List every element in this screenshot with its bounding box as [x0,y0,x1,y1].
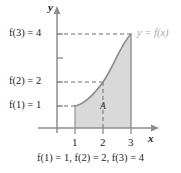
y-value-label-f1: f(1) = 1 [9,100,41,111]
function-plot [0,0,181,173]
x-tick-label-2: 2 [100,137,106,148]
area-label: A [100,102,106,112]
y-value-label-f3: f(3) = 4 [9,28,41,39]
y-axis-arrowhead [54,6,61,14]
x-axis-arrowhead [151,125,159,132]
x-tick-label-3: 3 [128,137,134,148]
y-value-label-f2: f(2) = 2 [9,76,41,87]
x-tick-label-1: 1 [72,137,78,148]
figure-container: f(3) = 4 f(2) = 2 f(1) = 1 1 2 3 y x y =… [0,0,181,173]
figure-caption: f(1) = 1, f(2) = 2, f(3) = 4 [0,152,181,163]
x-axis-label: x [148,133,154,144]
curve-label: y = f(x) [137,28,169,39]
y-axis-label: y [48,2,53,13]
